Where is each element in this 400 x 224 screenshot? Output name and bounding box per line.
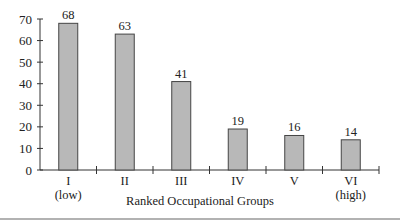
- bar: [228, 129, 247, 170]
- data-label: 41: [175, 67, 188, 81]
- bar: [285, 135, 304, 170]
- x-tick-sublabel: (low): [55, 188, 82, 202]
- x-tick-label: II: [121, 174, 129, 188]
- x-tick-label: IV: [231, 174, 244, 188]
- x-tick-label: III: [175, 174, 188, 188]
- y-tick-label: 20: [19, 119, 32, 134]
- x-tick-sublabel: (high): [335, 188, 366, 202]
- bar: [341, 140, 360, 170]
- y-tick-label: 50: [19, 55, 32, 70]
- data-label: 14: [345, 125, 358, 139]
- x-axis-label: Ranked Occupational Groups: [126, 194, 274, 208]
- x-tick-label: V: [290, 174, 299, 188]
- bar: [172, 82, 191, 170]
- y-axis: 010203040506070: [19, 12, 43, 178]
- y-tick-label: 0: [26, 163, 33, 178]
- data-label: 19: [232, 114, 245, 128]
- x-tick-label: VI: [344, 174, 357, 188]
- x-tick-label: I: [66, 174, 70, 188]
- data-label: 63: [119, 19, 132, 33]
- data-label: 68: [62, 8, 75, 22]
- bar-chart: 010203040506070 I(low)IIIIIIVVVI(high) 6…: [0, 0, 400, 224]
- y-tick-label: 10: [19, 141, 32, 156]
- bar: [59, 23, 78, 170]
- y-tick-label: 30: [19, 98, 32, 113]
- y-tick-label: 70: [19, 12, 32, 27]
- y-tick-label: 40: [19, 76, 32, 91]
- bars: 686341191614: [59, 8, 361, 170]
- data-label: 16: [288, 120, 301, 134]
- bar: [115, 34, 134, 170]
- y-tick-label: 60: [19, 33, 32, 48]
